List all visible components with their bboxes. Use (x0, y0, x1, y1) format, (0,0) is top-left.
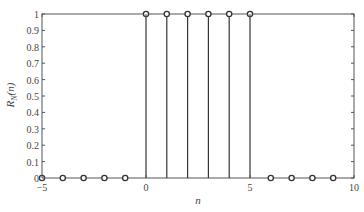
y-axis-ticks: 00.10.20.30.40.50.60.70.80.91 (27, 9, 355, 184)
y-tick-label: 0.9 (27, 25, 40, 36)
stem-marker (331, 175, 336, 180)
x-tick-label: 0 (144, 182, 149, 193)
plot-frame (42, 14, 354, 178)
x-axis-label: n (195, 194, 201, 206)
x-tick-label: 10 (349, 182, 359, 193)
stem-marker (268, 175, 273, 180)
y-tick-label: 0.3 (27, 124, 40, 135)
stem-series (39, 11, 335, 180)
y-tick-label: 1 (34, 9, 39, 20)
stem-marker (310, 175, 315, 180)
stem-marker (185, 11, 190, 16)
y-tick-label: 0 (34, 173, 39, 184)
stem-marker (81, 175, 86, 180)
stem-marker (206, 11, 211, 16)
stem-marker (123, 175, 128, 180)
y-axis-label: RN(n) (4, 82, 19, 108)
y-tick-label: 0.2 (27, 140, 40, 151)
x-tick-label: 5 (248, 182, 253, 193)
y-tick-label: 0.5 (27, 91, 40, 102)
stem-marker (102, 175, 107, 180)
stem-marker (164, 11, 169, 16)
y-tick-label: 0.8 (27, 42, 40, 53)
y-tick-label: 0.4 (27, 107, 40, 118)
plot-axes (42, 14, 354, 178)
stem-marker (60, 175, 65, 180)
x-axis-ticks: −50510 (37, 14, 359, 193)
stem-marker (289, 175, 294, 180)
stem-marker (227, 11, 232, 16)
y-tick-label: 0.1 (27, 157, 40, 168)
stem-plot: −50510 00.10.20.30.40.50.60.70.80.91 n R… (0, 0, 364, 212)
y-tick-label: 0.7 (27, 58, 40, 69)
y-tick-label: 0.6 (27, 75, 40, 86)
